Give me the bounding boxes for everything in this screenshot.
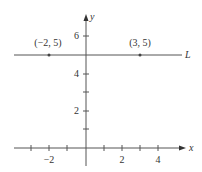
- coordinate-plane: y x L (−2, 5) (3, 5) −2 2 4 2 4 6: [0, 0, 202, 172]
- point-label-3-5: (3, 5): [129, 37, 151, 49]
- y-axis-label: y: [89, 11, 95, 22]
- y-axis: [83, 14, 89, 166]
- x-tick-label-neg2: −2: [44, 154, 55, 165]
- x-tick-label-2: 2: [120, 154, 125, 165]
- y-tick-label-2: 2: [74, 105, 79, 116]
- x-tick-label-4: 4: [156, 154, 161, 165]
- x-axis-label: x: [188, 142, 194, 153]
- point-3-5: [139, 54, 142, 57]
- y-axis-arrow-icon: [84, 14, 89, 21]
- x-axis: [14, 145, 186, 151]
- line-label: L: [184, 49, 191, 60]
- point-label-neg2-5: (−2, 5): [34, 37, 61, 49]
- y-tick-label-6: 6: [74, 30, 79, 41]
- point-neg2-5: [48, 54, 51, 57]
- y-tick-label-4: 4: [74, 68, 79, 79]
- x-axis-arrow-icon: [179, 146, 186, 151]
